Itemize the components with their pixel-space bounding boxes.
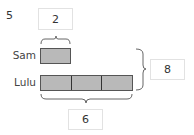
lulu-total-text: 6 — [82, 113, 89, 126]
right-brace-icon — [136, 49, 146, 90]
combined-total-box: 8 — [150, 59, 185, 80]
lulu-total-box: 6 — [68, 109, 103, 130]
bottom-brace-icon — [41, 94, 132, 103]
top-brace-icon — [41, 36, 70, 44]
combined-total-text: 8 — [164, 63, 171, 76]
